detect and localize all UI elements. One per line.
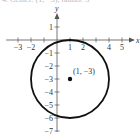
y-tick-label: −4	[44, 88, 53, 97]
points: (1, −3)	[68, 67, 95, 81]
x-tick-label: −2	[27, 43, 36, 52]
x-axis-label: x	[135, 36, 140, 45]
circle-graph: xy −3−212451−1−2−3−4−5−6−7 (1, −3)	[0, 0, 140, 134]
x-tick-label: 1	[68, 43, 72, 52]
center-point-label: (1, −3)	[73, 67, 95, 76]
y-tick-label: −3	[44, 75, 53, 84]
y-tick-label: −6	[44, 114, 53, 123]
x-tick-label: 2	[81, 43, 85, 52]
x-tick-label: 5	[120, 43, 124, 52]
x-tick-label: −3	[14, 43, 23, 52]
y-tick-label: −2	[44, 62, 53, 71]
x-tick-label: 4	[107, 43, 111, 52]
y-tick-label: −7	[44, 127, 53, 134]
x-axis-arrow-icon	[129, 38, 135, 43]
y-axis-label: y	[54, 4, 59, 13]
center-point	[68, 77, 72, 81]
y-axis-arrow-icon	[55, 13, 60, 19]
y-tick-label: −1	[44, 49, 53, 58]
y-tick-label: 1	[49, 23, 53, 32]
